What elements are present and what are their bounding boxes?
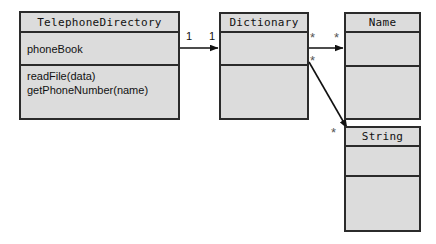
multiplicity-telephonedirectory-source: 1 bbox=[186, 31, 192, 42]
multiplicity-dictionary-target: 1 bbox=[209, 31, 215, 42]
class-attribute-item: phoneBook bbox=[27, 42, 178, 56]
multiplicity-dictionary-string-source: * bbox=[310, 55, 315, 66]
class-box-name[interactable]: Name bbox=[344, 12, 421, 120]
class-name-label: Dictionary bbox=[229, 16, 298, 29]
class-operations-compartment: readFile(data) getPhoneNumber(name) bbox=[21, 66, 178, 118]
class-name-compartment: String bbox=[346, 128, 419, 147]
uml-class-diagram: 1 1 * * * * TelephoneDirectory phoneBook… bbox=[0, 0, 436, 244]
class-name-label: String bbox=[362, 130, 404, 143]
class-name-label: TelephoneDirectory bbox=[37, 16, 162, 29]
multiplicity-dictionary-string-target: * bbox=[331, 127, 336, 138]
class-attributes-compartment: phoneBook bbox=[21, 33, 178, 66]
class-name-compartment: TelephoneDirectory bbox=[21, 13, 178, 33]
class-box-telephone-directory[interactable]: TelephoneDirectory phoneBook readFile(da… bbox=[19, 11, 180, 120]
class-attributes-compartment bbox=[346, 33, 419, 67]
class-name-label: Name bbox=[369, 16, 397, 29]
class-operation-item: getPhoneNumber(name) bbox=[27, 83, 178, 97]
class-name-compartment: Dictionary bbox=[221, 14, 307, 33]
edge-dictionary-string bbox=[309, 62, 347, 128]
class-operations-compartment bbox=[346, 177, 419, 230]
class-operations-compartment bbox=[346, 67, 419, 118]
class-operations-compartment bbox=[221, 66, 307, 118]
class-attributes-compartment bbox=[346, 147, 419, 177]
class-box-string[interactable]: String bbox=[344, 126, 421, 232]
class-box-dictionary[interactable]: Dictionary bbox=[219, 12, 309, 120]
multiplicity-dictionary-name-source: * bbox=[310, 32, 315, 43]
class-name-compartment: Name bbox=[346, 14, 419, 33]
class-attributes-compartment bbox=[221, 33, 307, 66]
multiplicity-dictionary-name-target: * bbox=[334, 32, 339, 43]
class-operation-item: readFile(data) bbox=[27, 69, 178, 83]
